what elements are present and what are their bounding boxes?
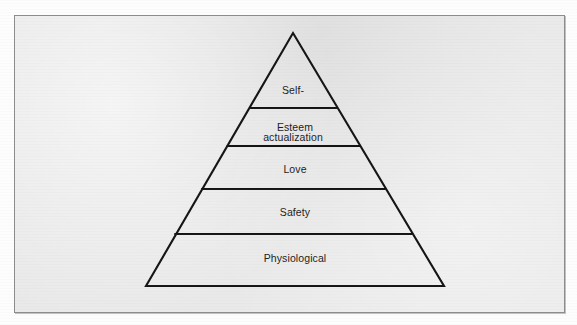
pyramid-tier-label-safety: Safety	[235, 206, 355, 219]
pyramid-tier-label-love: Love	[235, 163, 355, 176]
pyramid-tier-label-self-actualization: Self- actualization	[233, 58, 353, 170]
pyramid-tier-label-physiological: Physiological	[235, 252, 355, 265]
pyramid-tier-label-self-actualization-line-one: Self-	[233, 84, 353, 97]
pyramid-tier-label-esteem: Esteem	[235, 121, 355, 134]
scanned-figure-page: Self- actualization Esteem Love Safety P…	[0, 0, 577, 325]
